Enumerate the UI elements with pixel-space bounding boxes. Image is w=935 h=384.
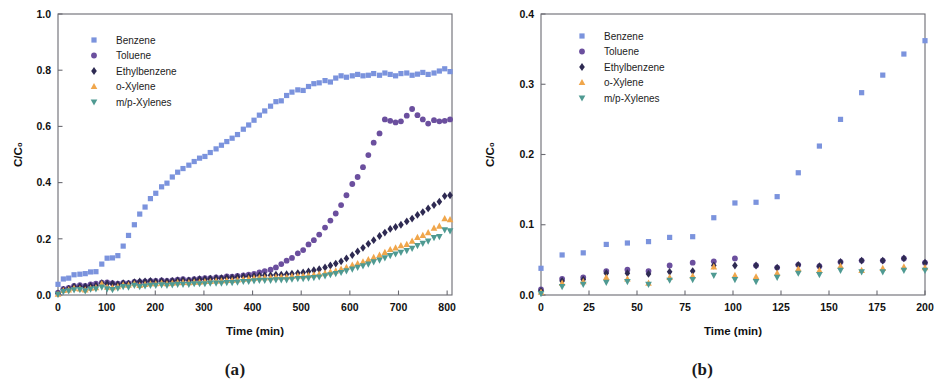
data-point-square [437, 68, 442, 73]
data-point-circle [295, 251, 301, 257]
data-point-square [667, 235, 672, 240]
data-point-triangle-down [580, 282, 587, 288]
figure-breakthrough-curves: 0.00.20.40.60.81.00100200300400500600700… [0, 0, 935, 384]
y-tick-label: 0.2 [519, 148, 534, 160]
x-tick-label: 200 [916, 301, 934, 313]
data-point-square [604, 242, 609, 247]
data-point-triangle-down [218, 281, 225, 287]
data-point-circle [311, 237, 317, 243]
data-point-triangle-down [349, 267, 356, 273]
data-point-square [753, 200, 758, 205]
data-point-circle [365, 152, 371, 158]
data-point-square [360, 73, 365, 78]
data-point-diamond [338, 257, 344, 265]
data-point-circle [431, 117, 437, 123]
data-point-diamond [377, 232, 383, 240]
data-point-square [447, 69, 452, 74]
data-point-circle [289, 255, 295, 261]
data-point-diamond [344, 255, 350, 263]
x-tick-label: 125 [772, 301, 790, 313]
data-point-square [311, 81, 316, 86]
data-point-square [83, 271, 88, 276]
x-tick-label: 800 [438, 301, 456, 313]
data-point-square [219, 143, 224, 148]
legend-label: Ethylbenzene [604, 62, 665, 73]
plot-frame [541, 14, 925, 295]
legend-label: o-Xylene [116, 81, 156, 92]
data-point-square [579, 33, 584, 38]
data-point-triangle-down [273, 277, 280, 283]
data-point-triangle-down [689, 277, 696, 283]
data-point-square [257, 113, 262, 118]
x-tick-label: 500 [292, 301, 310, 313]
data-point-square [279, 98, 284, 103]
y-tick-label: 0.1 [519, 218, 534, 230]
data-point-square [268, 104, 273, 109]
data-point-square [224, 139, 229, 144]
data-point-circle [344, 192, 350, 198]
x-tick-label: 100 [724, 301, 742, 313]
data-point-diamond [431, 201, 437, 209]
data-point-square [126, 233, 131, 238]
data-point-triangle-down [360, 263, 367, 269]
data-point-triangle-down [837, 268, 844, 274]
data-point-diamond [880, 257, 886, 265]
data-point-circle [732, 256, 738, 262]
data-point-square [415, 72, 420, 77]
y-tick-label: 0.8 [36, 64, 51, 76]
data-point-square [235, 132, 240, 137]
data-point-circle [360, 164, 366, 170]
data-point-circle [404, 113, 410, 119]
data-point-triangle-up [392, 244, 399, 250]
data-point-diamond [360, 244, 366, 252]
data-point-diamond [91, 67, 97, 75]
data-point-square [333, 75, 338, 80]
data-point-triangle-down [311, 275, 318, 281]
data-point-diamond [901, 255, 907, 263]
panel-a: 0.00.20.40.60.81.00100200300400500600700… [0, 0, 470, 384]
data-point-circle [333, 211, 339, 217]
data-point-triangle-down [289, 277, 296, 283]
y-axis-title: C/C₀ [484, 142, 496, 167]
data-point-diamond [420, 208, 426, 216]
x-tick-label: 600 [341, 301, 359, 313]
data-point-triangle-down [753, 279, 760, 285]
y-tick-label: 0.0 [36, 289, 51, 301]
data-point-square [132, 222, 137, 227]
data-point-triangle-up [441, 215, 448, 221]
data-point-square [159, 184, 164, 189]
data-point-square [175, 170, 180, 175]
data-point-square [202, 154, 207, 159]
data-point-triangle-down [261, 278, 268, 284]
data-point-square [180, 166, 185, 171]
legend-label: Benzene [116, 35, 156, 46]
data-point-square [241, 127, 246, 132]
data-point-triangle-down [382, 255, 389, 261]
data-point-triangle-down [732, 277, 739, 283]
data-point-circle [300, 247, 306, 253]
data-point-triangle-down [409, 246, 416, 252]
data-point-square [230, 136, 235, 141]
data-point-triangle-up [370, 254, 377, 260]
data-point-diamond [387, 225, 393, 233]
data-point-diamond [859, 257, 865, 265]
data-point-square [164, 181, 169, 186]
data-point-square [538, 266, 543, 271]
data-point-triangle-down [376, 258, 383, 264]
y-tick-label: 0.4 [36, 176, 51, 188]
x-tick-label: 400 [244, 301, 262, 313]
legend: BenzeneTolueneEthylbenzeneo-Xylenem/p-Xy… [91, 35, 177, 108]
data-point-square [295, 87, 300, 92]
data-point-square [922, 38, 927, 43]
data-point-circle [322, 225, 328, 231]
data-point-diamond [393, 223, 399, 231]
data-point-square [153, 191, 158, 196]
data-point-square [393, 73, 398, 78]
data-point-triangle-down [420, 241, 427, 247]
data-point-diamond [366, 240, 372, 248]
data-point-triangle-down [901, 268, 908, 274]
data-point-square [377, 73, 382, 78]
plot-a: 0.00.20.40.60.81.00100200300400500600700… [0, 0, 470, 345]
data-point-square [93, 269, 98, 274]
series-m-p-xylenes [55, 227, 454, 298]
